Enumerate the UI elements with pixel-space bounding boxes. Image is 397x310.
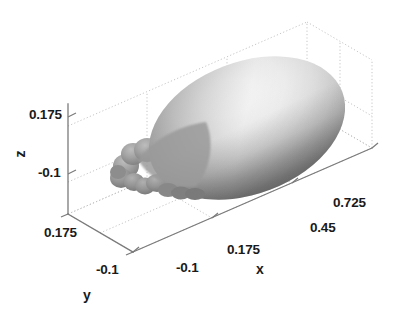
z-axis-label: z [13,151,27,158]
z-tick-label-1: -0.1 [38,166,60,180]
y-tick-label-1: -0.1 [96,263,118,277]
z-tick-0175 [68,113,76,117]
tail-lump-8 [110,165,126,179]
z-tick-neg01 [68,170,76,174]
y-tick-0175 [61,214,68,217]
gridline-backright-top [307,22,372,60]
y-axis-line [68,214,133,252]
x-tick-label-0: -0.1 [176,261,198,275]
x-tick-label-2: 0.45 [310,221,335,235]
figure-canvas: 0.175 -0.1 z 0.175 -0.1 y -0.1 0.175 0.4… [0,0,397,310]
surface-body-tailshade [128,30,366,226]
tail-bump-c [185,188,205,200]
y-tick-neg01 [126,252,133,255]
y-axis-label: y [83,288,91,302]
surface-object [110,30,366,226]
x-axis-label: x [256,262,264,276]
x-tick-label-3: 0.725 [333,196,366,210]
y-tick-label-0: 0.175 [44,226,77,240]
x-tick-label-1: 0.175 [227,243,260,257]
z-tick-label-0: 0.175 [29,108,62,122]
plot-svg [0,0,397,310]
x-tick-0725 [372,143,378,148]
